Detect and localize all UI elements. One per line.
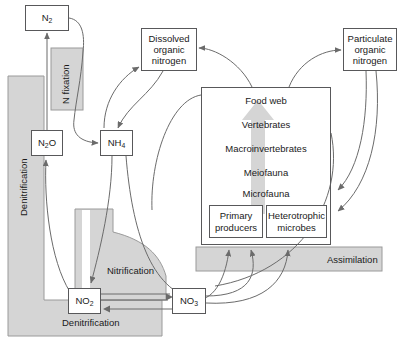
pool-label-dissolved-organic-nitrogen: Dissolved organic nitrogen — [148, 33, 189, 67]
arrow-foodweb-left-sweep — [152, 95, 201, 210]
process-label-nitrification: Nitrification — [107, 265, 154, 276]
primary-producers-label: Primary producers — [215, 210, 257, 232]
process-label-n-fixation: N fixation — [60, 64, 71, 104]
pool-label-no3: NO3 — [180, 295, 198, 308]
arrow-pon-to-foodweb-lower — [338, 71, 377, 211]
arrow-foodweb-to-don — [199, 48, 252, 87]
process-label-denitrification-left: Denitrification — [18, 158, 29, 216]
pool-box-dissolved-organic-nitrogen[interactable]: Dissolved organic nitrogen — [141, 28, 197, 71]
pool-box-particulate-organic-nitrogen[interactable]: Particulate organic nitrogen — [343, 28, 397, 71]
arrow-no2-to-n2o — [46, 160, 70, 292]
arrow-foodweb-to-pon — [289, 50, 341, 87]
food-web-compartment-primary-producers[interactable]: Primary producers — [209, 205, 263, 238]
arrow-nh4-to-don — [104, 67, 139, 128]
pool-box-n2o[interactable]: N2O — [31, 130, 63, 156]
food-web-level-meiofauna: Meiofauna — [201, 167, 331, 178]
food-web-level-microfauna: Microfauna — [201, 188, 331, 199]
pool-label-particulate-organic-nitrogen: Particulate organic nitrogen — [348, 33, 393, 67]
heterotrophic-microbes-label: Heterotrophic microbes — [268, 210, 325, 232]
pool-label-nh4: NH4 — [108, 137, 126, 150]
arrow-n-fixation-to-nh4 — [74, 120, 98, 143]
nitrification-white-channel — [82, 210, 90, 300]
food-web-level-vertebrates: Vertebrates — [201, 119, 331, 130]
pool-box-no3[interactable]: NO3 — [172, 288, 206, 314]
arrow-don-to-nh4 — [118, 71, 163, 128]
process-label-denitrification-bottom: Denitrification — [62, 317, 120, 328]
arrow-pon-to-foodweb-upper — [338, 71, 366, 190]
pool-label-n2: N2 — [42, 12, 53, 25]
food-web-level-macroinvertebrates: Macroinvertebrates — [201, 143, 331, 154]
process-label-assimilation: Assimilation — [327, 254, 378, 265]
pool-label-no2: NO2 — [75, 295, 93, 308]
pool-box-nh4[interactable]: NH4 — [100, 130, 133, 156]
pool-box-no2[interactable]: NO2 — [68, 288, 101, 314]
pool-label-n2o: N2O — [38, 137, 56, 150]
pool-box-n2[interactable]: N2 — [25, 5, 69, 31]
food-web-compartment-heterotrophic-microbes[interactable]: Heterotrophic microbes — [266, 205, 327, 238]
food-web-title: Food web — [201, 95, 331, 106]
nitrogen-cycle-diagram: N2 N2O NH4 NO2 NO3 Dissolved organic nit… — [0, 0, 407, 346]
